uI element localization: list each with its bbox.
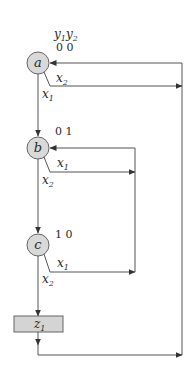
state-a-code: 0 0: [56, 41, 74, 54]
state-b-code: 0 1: [55, 125, 73, 138]
state-b-label: b: [34, 140, 42, 155]
state-a-label: a: [34, 55, 42, 70]
b-x2-label: x2: [42, 173, 54, 189]
a-x1-label: x1: [42, 87, 54, 103]
asm-chart: y1y2 0 0 a x2 x1 0 1 b x1 x2 1 0 c x1 x2…: [0, 0, 193, 378]
c-x1-label: x1: [57, 256, 69, 272]
b-x1-label: x1: [57, 156, 69, 172]
z1-return-line: [38, 345, 182, 355]
state-c-label: c: [34, 237, 42, 252]
a-x2-label: x2: [56, 71, 68, 87]
state-c-code: 1 0: [55, 228, 73, 241]
c-x2-label: x2: [42, 272, 54, 288]
